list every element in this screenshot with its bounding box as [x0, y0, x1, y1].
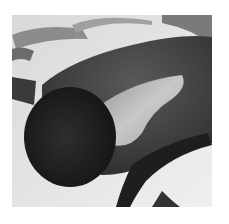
photo-illustration — [12, 15, 212, 207]
photo — [12, 15, 212, 207]
